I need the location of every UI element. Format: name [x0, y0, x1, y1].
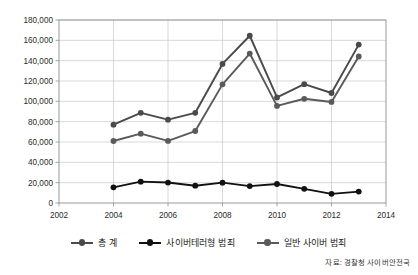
series-line-0 [114, 36, 359, 125]
data-point [301, 96, 307, 102]
series-line-1 [114, 182, 359, 194]
legend-label: 일반 사이버 범죄 [284, 236, 347, 249]
x-axis-tick-label: 2006 [159, 211, 178, 220]
data-point [356, 189, 362, 195]
legend-marker-icon [139, 238, 161, 247]
y-axis-tick-label: 120,000 [23, 77, 53, 86]
x-axis-tick-label: 2002 [50, 211, 69, 220]
data-point [111, 184, 117, 190]
data-point [220, 180, 226, 186]
source-note: 자료: 경찰청 사이버안전국 [325, 256, 410, 267]
y-axis-tick-label: 180,000 [23, 16, 53, 25]
legend-label: 사이버테러형 범죄 [166, 236, 234, 249]
chart-legend: 총 계사이버테러형 범죄일반 사이버 범죄 [0, 236, 418, 249]
data-point [247, 183, 253, 189]
data-point [165, 138, 171, 144]
y-axis-tick-label: 80,000 [28, 118, 53, 127]
data-point [329, 90, 335, 96]
y-axis-tick-label: 60,000 [28, 138, 53, 147]
data-point [247, 51, 253, 57]
data-point [301, 186, 307, 192]
data-point [301, 81, 307, 87]
data-point [356, 42, 362, 48]
x-axis-tick-label: 2010 [268, 211, 287, 220]
x-axis-tick-label: 2014 [377, 211, 396, 220]
x-axis-tick-label: 2012 [322, 211, 341, 220]
legend-item-2[interactable]: 일반 사이버 범죄 [257, 236, 347, 249]
data-point [220, 61, 226, 67]
x-axis-tick-label: 2008 [213, 211, 232, 220]
data-point [138, 179, 144, 185]
data-point [111, 138, 117, 144]
data-point [274, 95, 280, 101]
legend-item-1[interactable]: 사이버테러형 범죄 [139, 236, 234, 249]
legend-item-0[interactable]: 총 계 [71, 236, 117, 249]
data-point [192, 110, 198, 116]
x-axis-tick-label: 2004 [104, 211, 123, 220]
legend-marker-icon [71, 238, 93, 247]
y-axis-tick-label: 0 [48, 199, 53, 208]
data-point [274, 181, 280, 187]
series-line-2 [114, 54, 359, 141]
y-axis-tick-label: 40,000 [28, 158, 53, 167]
data-point [329, 191, 335, 197]
chart-container: 020,00040,00060,00080,000100,000120,0001… [0, 0, 418, 275]
data-point [356, 54, 362, 60]
y-axis-tick-label: 160,000 [23, 36, 53, 45]
data-point [192, 128, 198, 134]
legend-label: 총 계 [98, 236, 117, 249]
data-point [111, 122, 117, 128]
line-chart-plot: 020,00040,00060,00080,000100,000120,0001… [0, 0, 418, 236]
data-point [138, 110, 144, 116]
data-point [165, 117, 171, 123]
data-point [274, 103, 280, 109]
legend-marker-icon [257, 238, 279, 247]
y-axis-tick-label: 20,000 [28, 179, 53, 188]
data-point [247, 33, 253, 39]
data-point [138, 131, 144, 137]
data-point [192, 183, 198, 189]
y-axis-tick-label: 140,000 [23, 57, 53, 66]
data-point [220, 81, 226, 87]
data-point [165, 180, 171, 186]
data-point [329, 99, 335, 105]
y-axis-tick-label: 100,000 [23, 97, 53, 106]
